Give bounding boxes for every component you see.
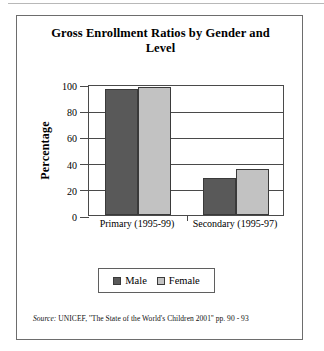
legend-swatch-light-icon bbox=[157, 277, 165, 285]
plot-area: 020406080100 bbox=[88, 85, 284, 216]
legend-item-female: Female bbox=[157, 275, 200, 286]
y-tick-label-100: 100 bbox=[55, 81, 77, 92]
figure-page: Gross Enrollment Ratios by Gender and Le… bbox=[0, 0, 324, 351]
y-axis-title: Percentage bbox=[37, 85, 54, 216]
legend-swatch-dark-icon bbox=[113, 277, 121, 285]
y-tick-20 bbox=[80, 190, 89, 191]
figure-frame: Gross Enrollment Ratios by Gender and Le… bbox=[16, 15, 303, 340]
bar-male-primary-1995-99 bbox=[105, 89, 138, 215]
y-tick-40 bbox=[80, 164, 89, 165]
chart-title: Gross Enrollment Ratios by Gender and Le… bbox=[43, 26, 278, 56]
y-tick-label-0: 0 bbox=[55, 212, 77, 223]
legend-label-male: Male bbox=[125, 275, 147, 286]
source-note-text: UNICEF, ''The State of the World's Child… bbox=[58, 314, 248, 323]
bar-male-secondary-1995-97 bbox=[203, 178, 236, 215]
legend-item-male: Male bbox=[113, 275, 147, 286]
plot-wrapper: 020406080100 Primary (1995-99)Secondary … bbox=[88, 85, 284, 216]
bar-female-secondary-1995-97 bbox=[236, 169, 269, 215]
y-tick-60 bbox=[80, 138, 89, 139]
legend-label-female: Female bbox=[169, 275, 200, 286]
bar-female-primary-1995-99 bbox=[138, 87, 171, 215]
source-note: Source: UNICEF, ''The State of the World… bbox=[33, 314, 291, 323]
y-axis-title-label: Percentage bbox=[38, 121, 53, 179]
y-tick-label-20: 20 bbox=[55, 185, 77, 196]
y-tick-100 bbox=[80, 86, 89, 87]
y-tick-80 bbox=[80, 112, 89, 113]
page-top-divider bbox=[8, 3, 324, 4]
x-axis-label-primary-1995-99: Primary (1995-99) bbox=[88, 218, 186, 229]
source-note-label: Source: bbox=[33, 314, 56, 323]
y-tick-label-40: 40 bbox=[55, 159, 77, 170]
chart-legend: Male Female bbox=[98, 268, 215, 293]
y-tick-label-80: 80 bbox=[55, 107, 77, 118]
y-tick-label-60: 60 bbox=[55, 133, 77, 144]
x-axis-label-secondary-1995-97: Secondary (1995-97) bbox=[186, 218, 284, 229]
